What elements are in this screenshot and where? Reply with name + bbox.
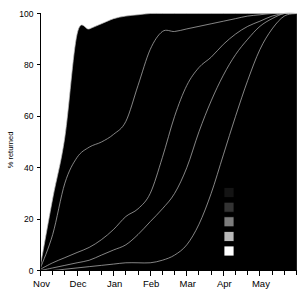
legend-label-breeders: Breeders (238, 175, 269, 184)
x-tick-label: May (252, 278, 270, 289)
legend-label-8-year-olds: 8-year olds (238, 204, 276, 213)
legend-label-2-year-olds: 2-year olds (238, 248, 276, 257)
legend-label-7-year-olds: 7-year olds (238, 218, 276, 227)
x-tick-label: Jan (107, 278, 122, 289)
legend-swatch-8-year-olds (224, 202, 234, 212)
y-tick-label: 80 (24, 60, 34, 70)
x-tick-label: Apr (217, 278, 232, 289)
legend-swatch-5-year-olds (224, 231, 234, 241)
y-tick-label: 0 (29, 266, 34, 276)
y-tick-label: 100 (19, 9, 33, 19)
legend-swatch-former-breeders (224, 188, 234, 198)
chart-container: 020406080100 NovDecJanFebMarAprMay % ret… (0, 0, 303, 294)
x-tick-label: Mar (180, 278, 196, 289)
y-tick-label: 20 (24, 214, 34, 224)
legend-swatch-2-year-olds (224, 246, 234, 256)
x-tick-label-group: NovDecJanFebMarAprMay (33, 278, 270, 289)
x-tick-group (41, 271, 297, 276)
x-tick-label: Feb (143, 278, 159, 289)
y-tick-label-group: 020406080100 (19, 9, 33, 276)
legend-label-5-year-olds: 5-year olds (238, 233, 276, 242)
y-tick-group (37, 14, 41, 271)
y-tick-label: 40 (24, 163, 34, 173)
x-tick-label: Nov (33, 278, 50, 289)
legend-label-former-breeders: Former breeders (238, 189, 295, 198)
y-axis-title: % returned (6, 132, 15, 169)
stacked-area-chart: 020406080100 NovDecJanFebMarAprMay % ret… (0, 0, 303, 294)
y-tick-label: 60 (24, 111, 34, 121)
legend-swatch-breeders (224, 173, 234, 183)
legend-swatch-7-year-olds (224, 217, 234, 227)
x-tick-label: Dec (70, 278, 87, 289)
